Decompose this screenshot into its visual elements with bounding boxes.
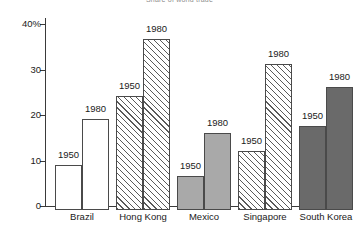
bar (265, 64, 292, 210)
y-axis-tick-label: 40% (1, 18, 41, 29)
bar-value-label: 1950 (180, 160, 201, 171)
bar-value-label: 1950 (302, 110, 323, 121)
bar (204, 133, 231, 210)
y-axis-line (45, 18, 46, 207)
bar (55, 165, 82, 211)
category-label: Singapore (243, 211, 286, 222)
category-label: Hong Kong (119, 211, 167, 222)
bar (238, 151, 265, 210)
bar (143, 39, 170, 210)
bar (177, 176, 204, 210)
bar-value-label: 1980 (85, 103, 106, 114)
bar-value-label: 1980 (329, 71, 350, 82)
plot-area: 010203040% 19501980195019801950198019501… (45, 18, 353, 210)
y-axis-tick-label: 10 (1, 155, 41, 166)
bar-value-label: 1980 (146, 23, 167, 34)
category-label: Brazil (70, 211, 94, 222)
bar-value-label: 1950 (58, 149, 79, 160)
y-axis-tick-label: 30 (1, 64, 41, 75)
bar-value-label: 1980 (268, 48, 289, 59)
bar (116, 96, 143, 210)
bar-value-label: 1950 (119, 80, 140, 91)
category-label: South Korea (300, 211, 353, 222)
y-axis-tick-label: 0 (1, 200, 41, 211)
category-label: Mexico (189, 211, 219, 222)
bar (82, 119, 109, 210)
bar-value-label: 1980 (207, 117, 228, 128)
bar-value-label: 1950 (241, 135, 262, 146)
chart-title: Share of world trade (0, 0, 359, 4)
bar-chart: Share of world trade 010203040% 19501980… (0, 0, 359, 238)
bar (326, 87, 353, 210)
bar (299, 126, 326, 210)
y-axis-tick-label: 20 (1, 109, 41, 120)
